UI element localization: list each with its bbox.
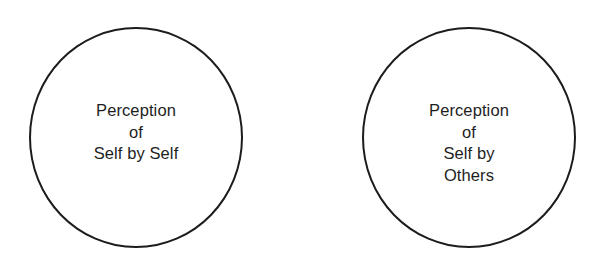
label-line: Others: [389, 165, 549, 187]
label-line: Self by Self: [56, 143, 216, 165]
label-line: of: [389, 122, 549, 144]
label-self-by-others: Perception of Self by Others: [389, 100, 549, 186]
perception-diagram: Perception of Self by Self Perception of…: [0, 0, 604, 265]
label-line: Perception: [389, 100, 549, 122]
label-line: of: [56, 122, 216, 144]
label-self-by-self: Perception of Self by Self: [56, 100, 216, 165]
label-line: Self by: [389, 143, 549, 165]
label-line: Perception: [56, 100, 216, 122]
